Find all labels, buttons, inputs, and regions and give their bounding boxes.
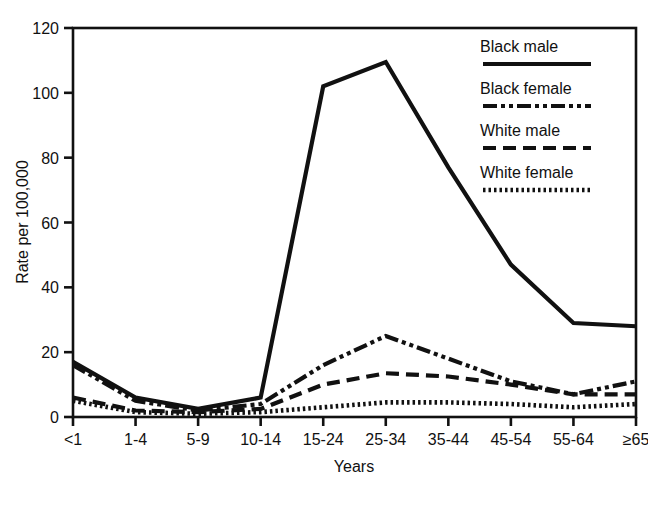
x-axis-tick-label: ≥65 — [623, 431, 648, 448]
legend-label-2: Black female — [480, 80, 572, 97]
legend-label-4: White female — [480, 164, 573, 181]
y-axis-tick-label: 80 — [41, 150, 59, 167]
chart-legend: Black maleBlack femaleWhite maleWhite fe… — [480, 38, 591, 190]
y-axis-title: Rate per 100,000 — [14, 160, 31, 284]
x-axis-tick-label: 35-44 — [428, 431, 469, 448]
x-axis-tick-labels: <11-45-910-1415-2425-3435-4445-5455-64≥6… — [64, 431, 648, 448]
x-axis-tick-label: 1-4 — [124, 431, 147, 448]
x-axis-tick-label: <1 — [64, 431, 82, 448]
y-axis-ticks — [64, 28, 73, 417]
x-axis-tick-label: 10-14 — [240, 431, 281, 448]
y-axis-tick-label: 20 — [41, 344, 59, 361]
y-axis-tick-label: 40 — [41, 279, 59, 296]
x-axis-ticks — [73, 417, 636, 426]
y-axis-tick-label: 60 — [41, 215, 59, 232]
series-line-black-male — [73, 62, 636, 409]
y-axis-tick-label: 0 — [50, 409, 59, 426]
series-line-black-female — [73, 336, 636, 411]
x-axis-tick-label: 25-34 — [365, 431, 406, 448]
y-axis-tick-label: 120 — [32, 20, 59, 37]
legend-label-3: White male — [480, 122, 560, 139]
x-axis-tick-label: 55-64 — [553, 431, 594, 448]
chart-figure: 020406080100120 <11-45-910-1415-2425-343… — [0, 0, 648, 506]
y-axis-tick-label: 100 — [32, 85, 59, 102]
x-axis-tick-label: 45-54 — [490, 431, 531, 448]
x-axis-tick-label: 5-9 — [187, 431, 210, 448]
data-series-group — [73, 62, 636, 414]
line-chart: 020406080100120 <11-45-910-1415-2425-343… — [0, 0, 648, 506]
x-axis-tick-label: 15-24 — [303, 431, 344, 448]
legend-label-1: Black male — [480, 38, 558, 55]
x-axis-title: Years — [334, 458, 374, 475]
y-axis-tick-labels: 020406080100120 — [32, 20, 59, 426]
